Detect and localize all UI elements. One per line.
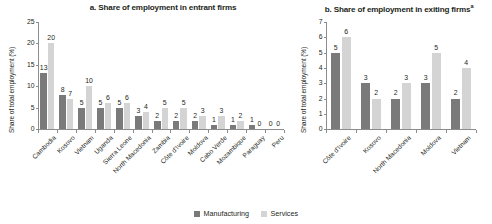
x-tick-mark [57,130,58,133]
bar-manufacturing: 3 [135,116,142,129]
bar-value-label: 20 [47,35,55,42]
y-tick-label: 1 [319,110,323,117]
bar-value-label: 3 [201,108,205,115]
y-tick-mark [324,83,327,84]
y-tick-label: 4 [319,65,323,72]
y-tick-mark [324,114,327,115]
bar-group: 10 [249,21,263,129]
panel-b-x-axis-line [326,129,476,130]
bar-services: 20 [48,43,55,129]
y-tick-mark [36,65,39,66]
bar-value-label: 3 [136,108,140,115]
bar-manufacturing: 2 [173,121,180,130]
bar-value-label: 3 [364,75,368,82]
bar-value-label: 1 [231,117,235,124]
bar-value-label: 1 [250,117,254,124]
x-axis-category-label: Kosovo [361,134,382,155]
x-tick-mark [114,130,115,133]
panel-b-y-axis-line [326,22,327,130]
x-axis-category-label: Vietnam [73,134,95,156]
bar-value-label: 1 [212,117,216,124]
bar-value-label: 6 [106,95,110,102]
bar-group: 25 [173,21,187,129]
x-axis-category-label: Côte d'Ivoire [321,134,352,165]
bar-value-label: 6 [125,95,129,102]
x-tick-mark [356,130,357,133]
bar-value-label: 2 [374,90,378,97]
bar-value-label: 5 [163,100,167,107]
x-tick-mark [95,130,96,133]
bar-value-label: 2 [174,113,178,120]
y-tick-label: 2 [319,95,323,102]
y-tick-label: 3 [319,80,323,87]
y-tick-mark [324,99,327,100]
bar-group: 510 [78,21,92,129]
bar-manufacturing: 1 [211,125,218,129]
x-tick-mark [446,130,447,133]
y-tick-label: 15 [27,61,35,68]
bar-value-label: 7 [68,91,72,98]
panel-a-y-axis-line [38,22,39,130]
bar-services: 6 [105,103,112,129]
bar-group: 34 [135,21,149,129]
bar-value-label: 3 [424,75,428,82]
bar-services: 5 [180,108,187,129]
bar-value-label: 5 [334,45,338,52]
bar-value-label: 5 [182,100,186,107]
bar-services: 5 [162,108,169,129]
bar-group: 32 [361,21,381,129]
x-tick-mark [246,130,247,133]
panel-a-y-axis-label: Share of total employment (%) [8,47,15,133]
bar-group: 12 [230,21,244,129]
legend-item-services[interactable]: Services [261,209,298,218]
bar-value-label: 13 [40,65,48,72]
bar-services: 7 [67,99,74,129]
legend-swatch-manufacturing [194,211,200,217]
x-axis-category-label: Peru [270,134,285,149]
bar-manufacturing: 3 [421,83,430,129]
bar-value-label: 5 [117,100,121,107]
x-axis-category-label: Vietnam [450,134,472,156]
bar-value-label: 4 [144,104,148,111]
bar-manufacturing: 5 [331,53,340,130]
y-tick-mark [36,86,39,87]
bar-manufacturing: 2 [192,121,199,130]
bar-group: 13 [211,21,225,129]
x-tick-mark [170,130,171,133]
x-tick-mark [284,130,285,133]
x-axis-category-label: Cambodia [31,134,57,160]
bar-value-label: 8 [61,87,65,94]
x-tick-mark [76,130,77,133]
bar-services: 3 [402,83,411,129]
x-tick-mark [265,130,266,133]
x-tick-mark [189,130,190,133]
bar-value-label: 2 [155,113,159,120]
y-tick-mark [324,68,327,69]
bar-group: 1320 [40,21,54,129]
bar-value-label: 3 [404,75,408,82]
panel-a-title: a. Share of employment in entrant firms [0,3,292,12]
bar-group: 56 [331,21,351,129]
bar-services: 4 [462,68,471,129]
bar-value-label: 2 [454,90,458,97]
bar-services: 3 [218,116,225,129]
y-tick-label: 5 [31,104,35,111]
panel-b-title-superscript: a [470,3,473,9]
legend-label-manufacturing: Manufacturing [203,209,249,218]
bar-value-label: 0 [276,121,280,128]
y-tick-label: 5 [319,49,323,56]
bar-manufacturing: 2 [391,99,400,130]
bar-services: 2 [372,99,381,130]
y-tick-mark [36,22,39,23]
legend-item-manufacturing[interactable]: Manufacturing [194,209,249,218]
bar-services: 6 [342,37,351,129]
panel-b-plot-area: 012345675632233524 [326,22,476,130]
x-tick-mark [416,130,417,133]
y-tick-mark [36,108,39,109]
bar-group: 56 [116,21,130,129]
panel-a-plot-area: 051015202513208751056563425252313121000 [38,22,284,130]
bar-value-label: 2 [193,113,197,120]
bar-value-label: 0 [269,121,273,128]
bar-manufacturing: 2 [154,121,161,130]
x-tick-mark [38,130,39,133]
